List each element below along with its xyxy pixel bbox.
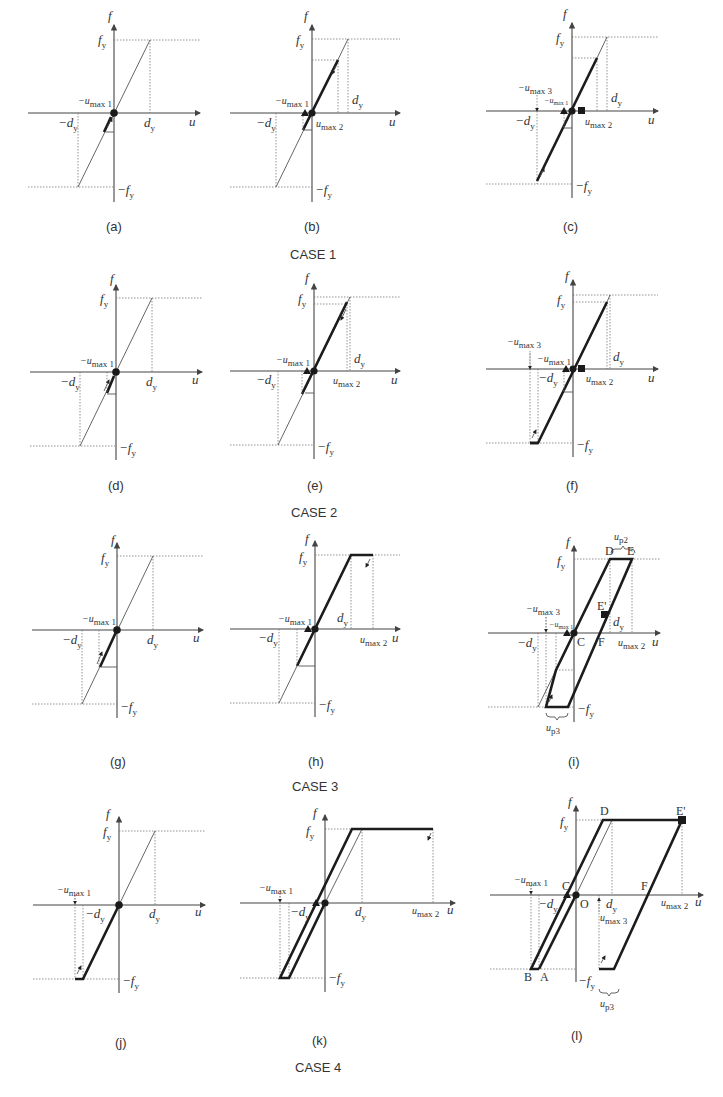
svg-text:f: f	[108, 8, 114, 23]
svg-text:E: E	[627, 544, 634, 558]
hysteresis-figure: f fy −fy dy −dy u −umax 1 (a) f fy −fy d…	[0, 0, 723, 1097]
svg-text:(d): (d)	[108, 478, 124, 493]
svg-text:−umax 1: −umax 1	[276, 354, 310, 368]
svg-text:f: f	[563, 6, 569, 21]
svg-text:fy: fy	[101, 550, 110, 568]
svg-text:dy: dy	[355, 904, 367, 922]
svg-text:f: f	[305, 270, 311, 285]
svg-text:−fy: −fy	[119, 440, 136, 458]
svg-text:u: u	[392, 630, 399, 645]
svg-text:−umax 1: −umax 1	[537, 353, 571, 367]
svg-text:u: u	[189, 114, 196, 129]
svg-text:D: D	[600, 804, 609, 818]
svg-text:F: F	[641, 879, 648, 893]
square-marker	[578, 107, 585, 114]
panel-a: f fy −fy dy −dy u −umax 1 (a)	[28, 8, 200, 234]
svg-text:umax 2: umax 2	[412, 905, 439, 919]
svg-text:fy: fy	[100, 291, 109, 309]
svg-text:umax 3: umax 3	[600, 912, 628, 926]
svg-text:fy: fy	[560, 814, 569, 832]
svg-text:−dy: −dy	[60, 374, 80, 392]
panel-h: f fy −fy dy −dy u −umax 1 umax 2 (h) CAS…	[230, 531, 400, 794]
svg-text:dy: dy	[352, 92, 364, 110]
panel-d: f fy −fy dy −dy u −umax 1 (d)	[30, 271, 202, 493]
case-label-2: CASE 2	[291, 505, 337, 520]
panel-k: f fy −fy dy −dy u −umax 1 umax 2 (k) CAS…	[240, 805, 455, 1075]
svg-text:dy: dy	[147, 632, 159, 650]
svg-text:fy: fy	[98, 32, 107, 50]
panel-i: up2 D E E' C F f fy −fy dy −dy u −umax 3…	[488, 531, 660, 769]
svg-text:−dy: −dy	[258, 630, 278, 648]
svg-text:fy: fy	[556, 30, 565, 48]
svg-text:(h): (h)	[308, 754, 324, 769]
svg-text:−fy: −fy	[575, 178, 592, 196]
svg-text:dy: dy	[613, 349, 625, 367]
svg-text:umax 2: umax 2	[316, 118, 343, 132]
svg-text:−umax 1: −umax 1	[275, 95, 309, 109]
svg-text:E': E'	[676, 804, 686, 818]
svg-text:dy: dy	[354, 351, 366, 369]
svg-text:−dy: −dy	[256, 372, 276, 390]
svg-text:−umax 1: −umax 1	[544, 96, 568, 106]
svg-text:−fy: −fy	[577, 701, 594, 719]
svg-text:up2: up2	[614, 531, 628, 545]
svg-text:fy: fy	[306, 823, 315, 841]
svg-text:u: u	[195, 904, 202, 919]
svg-text:umax 2: umax 2	[618, 637, 645, 651]
svg-text:E': E'	[597, 599, 607, 613]
svg-text:(f): (f)	[566, 478, 578, 493]
svg-text:−fy: −fy	[318, 697, 335, 715]
svg-text:(e): (e)	[307, 478, 323, 493]
svg-text:−umax 1: −umax 1	[514, 874, 548, 888]
svg-text:−umax 1: −umax 1	[259, 882, 293, 896]
svg-text:−fy: −fy	[317, 439, 334, 457]
svg-text:−umax 3: −umax 3	[507, 336, 541, 350]
svg-text:−dy: −dy	[58, 115, 78, 133]
panel-b: f fy −fy dy −dy u −umax 1 umax 2 (b) CAS…	[230, 8, 400, 262]
svg-text:fy: fy	[557, 292, 566, 310]
svg-text:−umax 1: −umax 1	[549, 620, 573, 630]
svg-text:C: C	[562, 879, 570, 893]
svg-text:C: C	[577, 635, 585, 649]
svg-text:(c): (c)	[563, 219, 578, 234]
svg-text:(a): (a)	[106, 219, 122, 234]
svg-text:−umax 1: −umax 1	[57, 884, 91, 898]
svg-text:−umax 1: −umax 1	[278, 613, 312, 627]
svg-text:(b): (b)	[304, 219, 320, 234]
svg-text:u: u	[695, 894, 702, 909]
svg-text:f: f	[568, 794, 574, 809]
svg-text:f: f	[304, 8, 310, 23]
case-label-1: CASE 1	[290, 247, 336, 262]
svg-text:−fy: −fy	[120, 699, 137, 717]
svg-text:−fy: −fy	[578, 973, 595, 991]
svg-text:O: O	[580, 897, 589, 911]
svg-text:dy: dy	[146, 374, 158, 392]
svg-text:fy: fy	[557, 553, 566, 571]
svg-text:f: f	[565, 268, 571, 283]
svg-text:−dy: −dy	[290, 904, 310, 922]
svg-text:(l): (l)	[571, 1028, 583, 1043]
svg-text:−umax 1: −umax 1	[78, 95, 112, 109]
panel-l: D E' C F O B A f fy −fy dy −dy u −umax 1…	[490, 794, 703, 1043]
svg-text:−umax 3: −umax 3	[526, 603, 560, 617]
svg-text:u: u	[193, 630, 200, 645]
svg-text:fy: fy	[296, 32, 305, 50]
svg-text:u: u	[391, 372, 398, 387]
svg-text:umax 2: umax 2	[661, 897, 688, 911]
svg-text:−fy: −fy	[576, 437, 593, 455]
svg-text:(k): (k)	[312, 1033, 327, 1048]
panel-e: f fy −fy dy −dy u −umax 1 umax 2 (e) CAS…	[230, 270, 400, 520]
svg-text:(g): (g)	[110, 754, 126, 769]
svg-text:−fy: −fy	[122, 973, 139, 991]
svg-text:−umax 3: −umax 3	[518, 82, 552, 96]
panel-g: f fy −fy dy −dy u −umax 1 (g)	[32, 532, 203, 769]
svg-text:−dy: −dy	[517, 635, 537, 653]
svg-text:dy: dy	[144, 115, 156, 133]
svg-text:u: u	[447, 902, 454, 917]
svg-text:−fy: −fy	[117, 182, 134, 200]
svg-text:umax 2: umax 2	[585, 116, 612, 130]
svg-text:D: D	[605, 544, 614, 558]
svg-text:−fy: −fy	[328, 970, 345, 988]
case-label-3: CASE 3	[292, 779, 338, 794]
svg-text:−umax 1: −umax 1	[82, 613, 116, 627]
